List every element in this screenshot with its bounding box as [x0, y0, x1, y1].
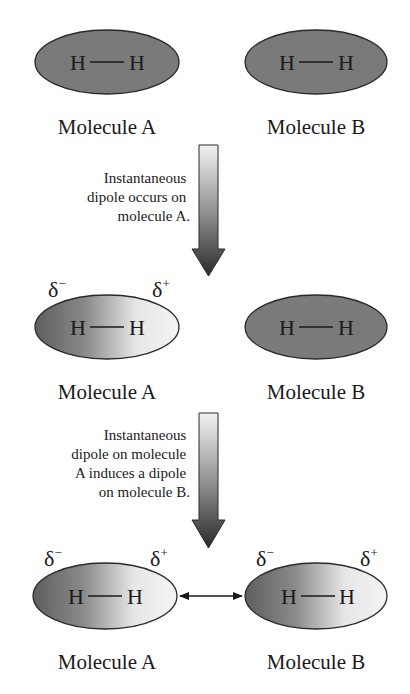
atom-h-left: H: [279, 315, 295, 340]
caption-line: dipole on molecule: [71, 446, 186, 462]
down-arrow-icon: [192, 145, 225, 276]
partial-negative-charge: δ−: [44, 545, 62, 571]
molecule-b-label: Molecule B: [267, 380, 366, 404]
molecule-b-label: Molecule B: [267, 115, 366, 139]
partial-negative-charge: δ−: [256, 545, 274, 571]
molecule-b-label: Molecule B: [267, 650, 366, 674]
atom-h-right: H: [127, 584, 143, 609]
atom-h-right: H: [339, 584, 355, 609]
stage-2: δ− δ+ H H Molecule A H H Molecule B: [35, 276, 387, 404]
atom-h-left: H: [279, 50, 295, 75]
molecule-a-polarized: δ− δ+ H H Molecule A: [35, 276, 179, 404]
stage-1: H H Molecule A H H Molecule B: [35, 30, 387, 139]
caption-line: Instantaneous: [104, 170, 187, 186]
caption-line: on molecule B.: [99, 484, 190, 500]
transition-1: Instantaneous dipole occurs on molecule …: [87, 145, 225, 276]
caption-line: dipole occurs on: [87, 189, 187, 205]
molecule-a-polarized: δ− δ+ H H Molecule A: [33, 545, 177, 674]
atom-h-right: H: [129, 50, 145, 75]
stage-3: δ− δ+ H H Molecule A δ− δ+ H H Molecule …: [33, 545, 387, 674]
down-arrow-icon: [192, 413, 225, 548]
transition-caption: Instantaneous dipole on molecule A induc…: [71, 427, 190, 500]
atom-h-left: H: [70, 315, 86, 340]
atom-h-right: H: [129, 315, 145, 340]
caption-line: A induces a dipole: [75, 465, 187, 481]
molecule-b-neutral: H H Molecule B: [245, 295, 387, 404]
molecule-a-label: Molecule A: [58, 380, 157, 404]
molecule-a-label: Molecule A: [58, 115, 157, 139]
dipole-diagram: H H Molecule A H H Molecule B Instantane…: [0, 0, 410, 694]
caption-line: molecule A.: [118, 208, 190, 224]
molecule-b-neutral: H H Molecule B: [245, 30, 387, 139]
caption-line: Instantaneous: [104, 427, 187, 443]
molecule-a-label: Molecule A: [58, 650, 157, 674]
partial-negative-charge: δ−: [48, 276, 66, 302]
partial-positive-charge: δ+: [360, 545, 378, 571]
atom-h-right: H: [338, 315, 354, 340]
atom-h-left: H: [70, 50, 86, 75]
atom-h-right: H: [338, 50, 354, 75]
partial-positive-charge: δ+: [152, 276, 170, 302]
atom-h-left: H: [68, 584, 84, 609]
transition-2: Instantaneous dipole on molecule A induc…: [71, 413, 225, 548]
partial-positive-charge: δ+: [150, 545, 168, 571]
molecule-b-polarized: δ− δ+ H H Molecule B: [245, 545, 387, 674]
atom-h-left: H: [281, 584, 297, 609]
transition-caption: Instantaneous dipole occurs on molecule …: [87, 170, 190, 224]
molecule-a-neutral: H H Molecule A: [35, 30, 179, 139]
